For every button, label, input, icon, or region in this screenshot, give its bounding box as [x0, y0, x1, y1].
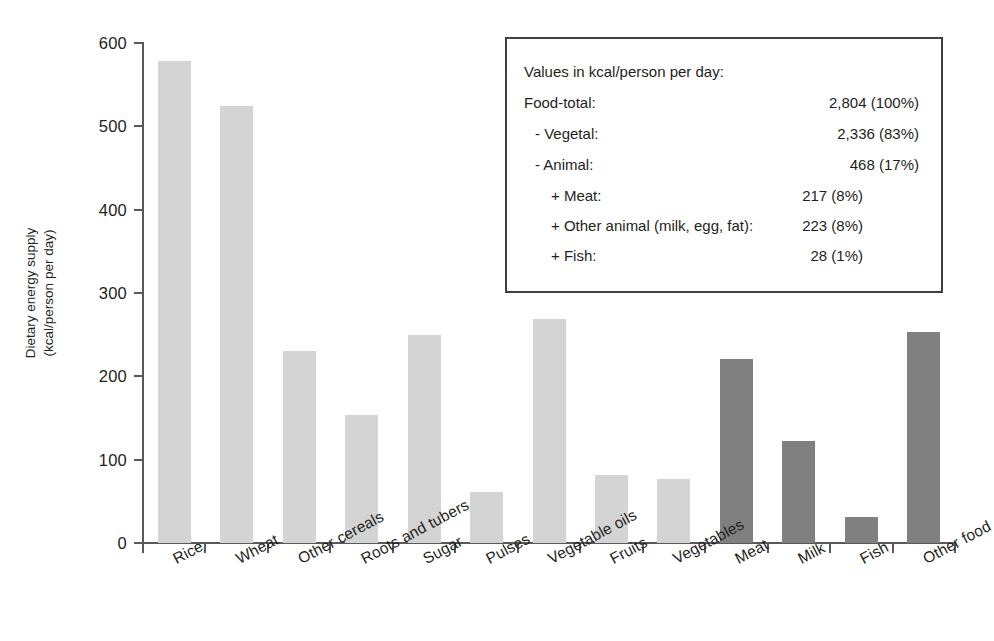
legend-row-label: + Fish: — [524, 247, 596, 264]
legend-row: + Meat:217 (8%) — [524, 187, 919, 204]
legend-row: - Vegetal:2,336 (83%) — [524, 125, 919, 142]
legend-rows: Food-total:2,804 (100%)- Vegetal:2,336 (… — [524, 94, 919, 264]
y-axis-tick: 100 — [134, 459, 143, 461]
legend-row: - Animal:468 (17%) — [524, 156, 919, 173]
legend-row-label: - Vegetal: — [524, 125, 598, 142]
bar — [158, 61, 191, 543]
y-axis-tick: 200 — [134, 375, 143, 377]
legend-row-value: 2,804 (100%) — [829, 94, 919, 111]
y-axis-tick: 300 — [134, 292, 143, 294]
bar — [220, 106, 253, 544]
bar — [657, 479, 690, 543]
y-axis-tick-label: 500 — [99, 117, 127, 136]
y-axis-tick-label: 300 — [99, 284, 127, 303]
legend-row: + Other animal (milk, egg, fat):223 (8%) — [524, 217, 919, 234]
bar — [470, 492, 503, 543]
legend-box: Values in kcal/person per day: Food-tota… — [505, 37, 943, 293]
y-axis-tick: 400 — [134, 209, 143, 211]
legend-row-value: 217 (8%) — [802, 187, 863, 204]
bar — [845, 517, 878, 543]
x-axis-tick — [829, 543, 831, 553]
y-axis-tick: 500 — [134, 125, 143, 127]
bar — [533, 319, 566, 543]
y-axis-tick-label: 0 — [118, 534, 127, 553]
y-axis-tick: 600 — [134, 42, 143, 44]
legend-title: Values in kcal/person per day: — [524, 63, 919, 80]
legend-row-value: 223 (8%) — [802, 217, 863, 234]
legend-row: Food-total:2,804 (100%) — [524, 94, 919, 111]
y-axis-tick-label: 600 — [99, 34, 127, 53]
legend-row-label: + Other animal (milk, egg, fat): — [524, 217, 753, 234]
legend-row-value: 2,336 (83%) — [837, 125, 919, 142]
bar — [283, 351, 316, 543]
legend-row-label: - Animal: — [524, 156, 593, 173]
bar — [782, 441, 815, 543]
x-axis-tick — [892, 543, 894, 553]
y-axis-tick-label: 100 — [99, 450, 127, 469]
legend-row-label: + Meat: — [524, 187, 601, 204]
x-axis-tick — [142, 543, 144, 553]
legend-row-value: 28 (1%) — [810, 247, 863, 264]
y-axis-title-line-1: Dietary energy supply — [22, 43, 40, 543]
y-axis-tick-label: 400 — [99, 200, 127, 219]
y-axis-title: Dietary energy supply (kcal/person per d… — [22, 43, 66, 543]
bar — [907, 332, 940, 543]
legend-row: + Fish:28 (1%) — [524, 247, 919, 264]
y-axis-tick-label: 200 — [99, 367, 127, 386]
legend-row-value: 468 (17%) — [850, 156, 919, 173]
y-axis-title-line-2: (kcal/person per day) — [40, 43, 58, 543]
legend-row-label: Food-total: — [524, 94, 596, 111]
